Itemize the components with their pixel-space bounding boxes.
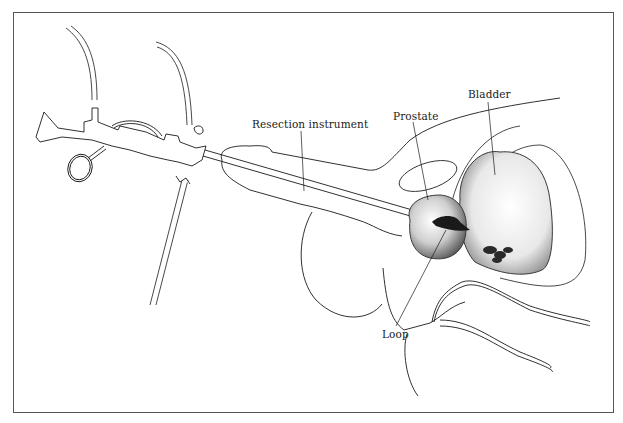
anatomy-outline-pelvis: [383, 268, 590, 396]
bladder-shape: [460, 152, 553, 275]
label-prostate: Prostate: [393, 110, 439, 122]
label-resection-instrument: Resection instrument: [252, 118, 368, 130]
anatomy-outline-scrotum: [301, 212, 382, 317]
resection-instrument-body: [36, 108, 206, 185]
diagram-canvas: [0, 0, 623, 423]
label-bladder: Bladder: [468, 88, 511, 100]
label-loop: Loop: [382, 328, 409, 340]
resection-diagram: Resection instrument Prostate Bladder Lo…: [0, 0, 623, 423]
irrigation-tubes: [66, 26, 192, 305]
